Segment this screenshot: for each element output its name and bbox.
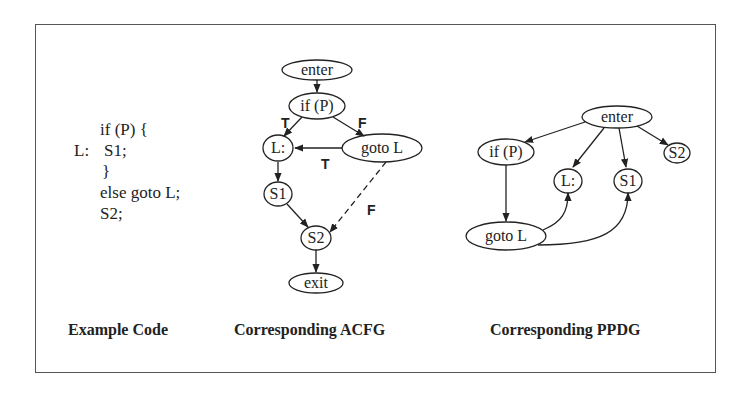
acfg-node-ifp-label: if (P) [300,97,333,115]
ppdg-edge-gotol-l [543,193,568,230]
acfg-node-gotol-label: goto L [361,139,403,157]
ppdg-edge-enter-l [573,128,604,167]
acfg-edge-label-t1: T [281,115,290,131]
ppdg-node-l-label: L: [561,172,575,189]
ppdg-node-labels: enter if (P) S2 L: S1 goto L [485,108,686,245]
ppdg-edge-enter-s2 [637,126,668,145]
ppdg-edge-gotol-s1 [538,193,628,245]
acfg-edge-label-f2: F [367,202,376,218]
ppdg-node-enter-label: enter [601,108,634,125]
ppdg-node-ifp-label: if (P) [489,143,522,161]
acfg-edge-label-t2: T [321,156,330,172]
ppdg-edge-enter-ifp [525,122,585,142]
ppdg-edge-enter-s1 [619,128,626,167]
acfg-node-labels: enter if (P) L: goto L S1 S2 exit T F T … [270,61,404,291]
ppdg-node-s1-label: S1 [620,172,637,189]
acfg-node-enter-label: enter [301,61,334,78]
acfg-edge-label-f1: F [358,115,367,131]
acfg-node-exit-label: exit [304,274,329,291]
acfg-graph [263,60,422,293]
acfg-edge-gotol-s2 [330,162,386,232]
ppdg-node-s2-label: S2 [669,144,686,161]
acfg-node-l-label: L: [271,139,285,156]
acfg-node-s2-label: S2 [308,229,325,246]
graphs-canvas: enter if (P) L: goto L S1 S2 exit T F T … [0,0,753,394]
ppdg-node-gotol-label: goto L [485,227,527,245]
acfg-edge-s1-s2 [287,204,308,227]
acfg-node-s1-label: S1 [270,185,287,202]
